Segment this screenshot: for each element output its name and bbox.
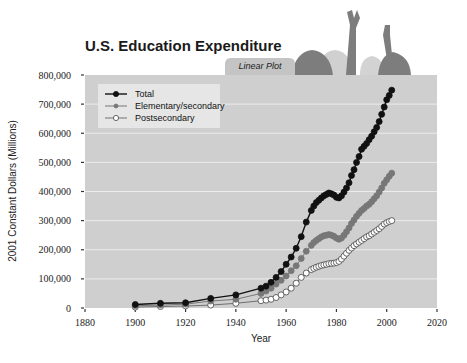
data-point: [374, 124, 380, 130]
x-tick-label: 1900: [125, 317, 145, 328]
data-point: [381, 104, 387, 110]
y-tick-label: 600,000: [39, 128, 72, 139]
raised-hands-illustration: [292, 10, 411, 75]
legend-label: Total: [135, 89, 154, 99]
data-point: [298, 255, 304, 261]
data-point: [303, 248, 309, 254]
data-point: [278, 269, 284, 275]
data-point: [268, 279, 274, 285]
y-tick-label: 800,000: [39, 70, 72, 81]
data-point: [293, 245, 299, 251]
x-axis: 18801900192019401960198020002020: [75, 309, 447, 328]
y-axis: 0100,000200,000300,000400,000500,000600,…: [39, 70, 85, 314]
x-tick-label: 1920: [176, 317, 196, 328]
data-point: [132, 302, 138, 308]
data-point: [233, 292, 239, 298]
y-tick-label: 500,000: [39, 157, 72, 168]
linear-plot-tab[interactable]: Linear Plot: [225, 58, 295, 75]
y-axis-label: 2001 Constant Dollars (Millions): [7, 120, 18, 262]
data-point: [389, 87, 395, 93]
data-point: [288, 254, 294, 260]
data-point: [376, 119, 382, 125]
legend-marker: [114, 104, 118, 108]
data-point: [293, 280, 299, 286]
y-tick-label: 200,000: [39, 244, 72, 255]
y-tick-label: 700,000: [39, 99, 72, 110]
data-point: [283, 261, 289, 267]
data-point: [183, 300, 189, 306]
data-point: [389, 170, 395, 176]
x-axis-label: Year: [251, 333, 272, 344]
education-expenditure-chart: Linear Plot U.S. Education Expenditure 0…: [0, 0, 467, 363]
x-tick-label: 2000: [377, 317, 397, 328]
chart-title: U.S. Education Expenditure: [85, 37, 282, 54]
x-tick-label: 1960: [276, 317, 296, 328]
data-point: [349, 172, 355, 178]
y-tick-label: 0: [66, 303, 71, 314]
data-point: [303, 219, 309, 225]
data-point: [298, 234, 304, 240]
data-point: [356, 154, 362, 160]
data-point: [354, 159, 360, 165]
data-point: [288, 268, 294, 274]
data-point: [351, 167, 357, 173]
x-tick-label: 2020: [427, 317, 447, 328]
y-tick-label: 100,000: [39, 273, 72, 284]
data-point: [298, 274, 304, 280]
data-point: [293, 263, 299, 269]
data-point: [208, 295, 214, 301]
data-point: [157, 300, 163, 306]
x-tick-label: 1880: [75, 317, 95, 328]
y-tick-label: 300,000: [39, 215, 72, 226]
data-point: [273, 274, 279, 280]
y-tick-label: 400,000: [39, 186, 72, 197]
data-point: [379, 111, 385, 117]
data-point: [346, 180, 352, 186]
data-point: [389, 218, 395, 224]
legend-marker: [113, 91, 118, 96]
x-tick-label: 1980: [326, 317, 346, 328]
tab-label: Linear Plot: [238, 61, 282, 71]
legend-marker: [113, 115, 118, 120]
legend-label: Elementary/secondary: [135, 101, 225, 111]
legend: TotalElementary/secondaryPostsecondary: [98, 84, 225, 128]
data-point: [288, 285, 294, 291]
data-point: [283, 273, 289, 279]
legend-label: Postsecondary: [135, 113, 195, 123]
x-tick-label: 1940: [226, 317, 246, 328]
